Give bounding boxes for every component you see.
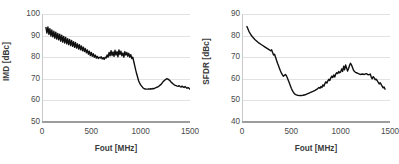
plot-area-imd [42,14,190,122]
y-tick-label: 50 [14,118,40,126]
y-tick-label: 70 [214,53,240,61]
y-tick-label: 60 [214,75,240,83]
figure-container: IMD [dBc] 5060708090100 050010001500 Fou… [0,0,399,164]
x-axis-label-sfdr: Fout [MHz] [295,144,337,153]
y-tick-labels-sfdr: 405060708090 [212,0,240,164]
x-tick-label: 1000 [132,128,150,136]
y-tick-label: 80 [14,53,40,61]
x-tick-label: 1500 [181,128,199,136]
data-curve-imd-vs-fout [42,14,190,122]
y-tick-label: 100 [14,10,40,18]
x-tick-label: 0 [240,128,245,136]
data-curve-sfdr-vs-fout [242,14,390,122]
y-tick-label: 50 [214,96,240,104]
y-tick-label: 60 [14,96,40,104]
series-line [247,27,385,96]
y-tick-label: 90 [14,31,40,39]
y-tick-labels-imd: 5060708090100 [12,0,40,164]
x-axis-label-imd: Fout [MHz] [95,144,137,153]
plot-area-sfdr [242,14,390,122]
x-tick-label: 500 [84,128,98,136]
chart-panel-imd: IMD [dBc] 5060708090100 050010001500 Fou… [0,0,199,164]
x-tick-label: 1000 [332,128,350,136]
x-tick-label: 0 [40,128,45,136]
x-tick-label: 500 [284,128,298,136]
x-tick-label: 1500 [381,128,399,136]
y-tick-label: 80 [214,31,240,39]
y-axis-label-sfdr: SFDR [dBc] [199,0,213,122]
y-tick-label: 70 [14,75,40,83]
chart-panel-sfdr: SFDR [dBc] 405060708090 050010001500 Fou… [199,0,399,164]
series-line [46,27,190,89]
y-tick-label: 40 [214,118,240,126]
gridline [242,122,390,123]
gridline [42,122,190,123]
y-tick-label: 90 [214,10,240,18]
